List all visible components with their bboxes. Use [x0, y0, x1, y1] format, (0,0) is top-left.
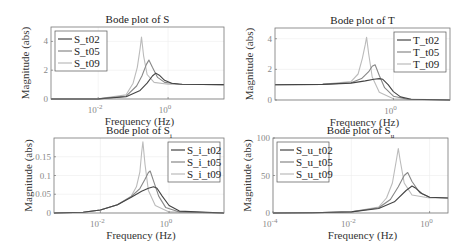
- subplot-3: 00.050.10.1510-2100Bode plot of SiFreque…: [22, 124, 224, 242]
- y-tick-label: 50: [261, 171, 271, 181]
- legend-entry: S_i_t02: [187, 144, 221, 156]
- y-tick-label: 2: [268, 64, 273, 74]
- legend: S_i_t02S_i_t05S_i_t09: [168, 142, 222, 182]
- y-tick-label: 0: [266, 208, 271, 218]
- legend-entry: T_t09: [413, 58, 440, 70]
- x-tick-label: 10-2: [88, 103, 103, 115]
- legend-entry: S_u_t05: [296, 156, 333, 168]
- x-tick-label: 100: [160, 217, 173, 229]
- y-tick-label: 0: [47, 208, 52, 218]
- subplot-4: 05010010-410-2100Bode plot of SuFrequenc…: [241, 124, 448, 242]
- y-tick-label: 0: [44, 94, 49, 104]
- y-tick-label: 2: [44, 65, 49, 75]
- y-axis-label: Magnitude (abs): [22, 139, 35, 212]
- series-line-S_t02: [51, 73, 224, 99]
- legend-entry: S_t02: [74, 33, 100, 45]
- x-tick-label: 10-2: [90, 217, 105, 229]
- chart-title: Bode plot of S: [106, 13, 170, 25]
- legend-entry: S_t05: [74, 45, 100, 57]
- legend-entry: T_t02: [413, 34, 439, 46]
- subplot-2: 024100Bode plot of TFrequency (Hz)Magnit…: [243, 14, 450, 129]
- series-line-T_t02: [275, 79, 450, 100]
- legend-entry: S_u_t09: [296, 168, 333, 180]
- subplot-1: 02410-2100Bode plot of SFrequency (Hz)Ma…: [19, 13, 224, 128]
- y-tick-label: 0.05: [35, 189, 51, 199]
- x-tick-label: 100: [420, 217, 433, 229]
- y-axis-label: Magnitude (abs): [19, 26, 32, 99]
- x-tick-label: 10-4: [263, 217, 278, 229]
- legend-entry: T_t05: [413, 46, 440, 58]
- y-tick-label: 4: [44, 36, 49, 46]
- x-axis-label: Frequency (Hz): [106, 229, 176, 242]
- x-tick-label: 10-2: [341, 217, 356, 229]
- y-tick-label: 0.15: [35, 152, 51, 162]
- y-tick-label: 100: [257, 133, 271, 143]
- chart-title: Bode plot of T: [330, 14, 395, 26]
- legend: T_t02T_t05T_t09: [394, 32, 446, 72]
- legend: S_t02S_t05S_t09: [55, 31, 107, 71]
- legend-entry: S_i_t09: [187, 168, 222, 180]
- x-tick-label: 100: [384, 104, 397, 116]
- legend: S_u_t02S_u_t05S_u_t09: [277, 142, 333, 182]
- legend-entry: S_u_t02: [296, 144, 333, 156]
- series-line-S_i_t02: [54, 187, 224, 213]
- x-axis-label: Frequency (Hz): [328, 229, 398, 242]
- legend-entry: S_i_t05: [187, 156, 222, 168]
- x-tick-label: 100: [159, 103, 172, 115]
- y-axis-label: Magnitude (abs): [241, 139, 254, 212]
- y-axis-label: Magnitude (abs): [243, 27, 256, 100]
- y-tick-label: 0: [268, 95, 273, 105]
- legend-entry: S_t09: [74, 57, 100, 69]
- y-tick-label: 4: [268, 34, 273, 44]
- figure-canvas: 02410-2100Bode plot of SFrequency (Hz)Ma…: [0, 0, 467, 249]
- y-tick-label: 0.1: [40, 171, 51, 181]
- series-line-S_u_t02: [273, 186, 448, 213]
